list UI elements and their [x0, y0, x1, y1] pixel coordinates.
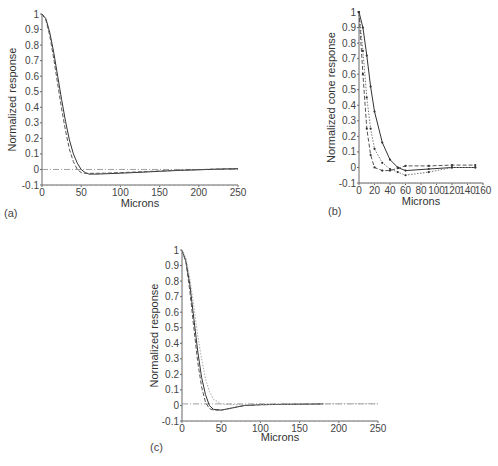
- x-tick-label: 50: [216, 423, 228, 434]
- data-marker: [428, 168, 430, 170]
- data-marker: [404, 165, 406, 167]
- data-marker: [381, 169, 383, 171]
- x-tick-label: 0: [179, 423, 185, 434]
- data-marker: [389, 169, 391, 171]
- y-tick-label: 1: [350, 7, 356, 18]
- series-line: [42, 14, 238, 174]
- y-tick-label: 0.3: [25, 117, 39, 128]
- y-tick-label: 1: [173, 245, 179, 256]
- y-tick-label: 0.7: [165, 291, 179, 302]
- data-marker: [428, 171, 430, 173]
- y-tick-label: 1: [33, 9, 39, 20]
- y-axis-label: Normalized response: [6, 48, 18, 152]
- y-tick-label: 0.4: [342, 100, 356, 111]
- data-marker: [428, 165, 430, 167]
- series-line: [42, 14, 238, 173]
- x-axis-label: Microns: [261, 431, 300, 443]
- data-marker: [362, 26, 364, 28]
- data-marker: [370, 154, 372, 156]
- y-tick-label: 0.8: [342, 38, 356, 49]
- data-marker: [474, 164, 476, 166]
- y-tick-label: 0.6: [165, 307, 179, 318]
- data-marker: [373, 166, 375, 168]
- y-tick-label: 0.6: [25, 71, 39, 82]
- data-marker: [451, 166, 453, 168]
- y-tick-label: 0.1: [165, 384, 179, 395]
- y-tick-label: 0.1: [25, 148, 39, 159]
- chart-a: -0.100.10.20.30.40.50.60.70.80.910501001…: [4, 9, 247, 220]
- data-marker: [362, 73, 364, 75]
- panel-label: (b): [328, 205, 341, 217]
- data-marker: [381, 162, 383, 164]
- figure-canvas: -0.100.10.20.30.40.50.60.70.80.910501001…: [0, 0, 498, 466]
- y-tick-label: 0.2: [165, 369, 179, 380]
- y-tick-label: 0.8: [25, 40, 39, 51]
- x-tick-label: 250: [230, 187, 247, 198]
- x-tick-label: 50: [76, 187, 88, 198]
- data-marker: [370, 86, 372, 88]
- y-tick-label: 0.5: [25, 86, 39, 97]
- y-tick-label: -0.1: [339, 178, 357, 189]
- y-tick-label: 0.1: [342, 146, 356, 157]
- data-marker: [381, 141, 383, 143]
- data-marker: [404, 169, 406, 171]
- x-tick-label: 0: [356, 185, 362, 196]
- y-tick-label: 0.9: [342, 22, 356, 33]
- x-tick-label: 200: [190, 187, 207, 198]
- series-line: [182, 250, 378, 405]
- data-marker: [370, 127, 372, 129]
- data-marker: [404, 174, 406, 176]
- x-axis-label: Microns: [121, 197, 160, 209]
- y-axis-label: Normalized response: [148, 284, 160, 388]
- y-tick-label: 0.9: [25, 24, 39, 35]
- y-tick-label: 0.3: [165, 353, 179, 364]
- series-line: [182, 250, 323, 410]
- series-line: [359, 12, 475, 171]
- series-line: [359, 12, 475, 175]
- y-tick-label: 0.2: [342, 131, 356, 142]
- data-marker: [373, 110, 375, 112]
- y-tick-label: 0: [33, 164, 39, 175]
- data-marker: [389, 159, 391, 161]
- y-tick-label: 0.4: [25, 102, 39, 113]
- data-marker: [366, 96, 368, 98]
- x-axis-label: Microns: [402, 195, 441, 207]
- y-tick-label: 0.9: [165, 260, 179, 271]
- data-marker: [366, 54, 368, 56]
- y-tick-label: -0.1: [162, 416, 180, 427]
- y-tick-label: 0.8: [165, 276, 179, 287]
- x-tick-label: 0: [39, 187, 45, 198]
- y-tick-label: -0.1: [22, 180, 40, 191]
- data-marker: [397, 167, 399, 169]
- y-tick-label: 0.5: [165, 322, 179, 333]
- data-marker: [397, 171, 399, 173]
- panel-label: (c): [150, 441, 163, 453]
- chart-b: -0.100.10.20.30.40.50.60.70.80.910204060…: [325, 7, 492, 218]
- y-tick-label: 0.2: [25, 133, 39, 144]
- series-line: [359, 12, 475, 171]
- y-tick-label: 0: [173, 400, 179, 411]
- y-tick-label: 0.7: [25, 55, 39, 66]
- x-tick-label: 20: [369, 185, 381, 196]
- y-tick-label: 0.7: [342, 53, 356, 64]
- data-marker: [451, 164, 453, 166]
- y-tick-label: 0.5: [342, 84, 356, 95]
- x-tick-label: 40: [384, 185, 396, 196]
- data-marker: [474, 166, 476, 168]
- y-tick-label: 0.4: [165, 338, 179, 349]
- data-marker: [366, 127, 368, 129]
- y-tick-label: 0.3: [342, 115, 356, 126]
- data-marker: [362, 50, 364, 52]
- y-tick-label: 0: [350, 162, 356, 173]
- x-tick-label: 160: [475, 185, 492, 196]
- data-marker: [358, 11, 360, 13]
- x-tick-label: 200: [330, 423, 347, 434]
- data-marker: [373, 148, 375, 150]
- chart-c: -0.100.10.20.30.40.50.60.70.80.910501001…: [148, 245, 387, 454]
- y-tick-label: 0.6: [342, 69, 356, 80]
- x-tick-label: 250: [370, 423, 387, 434]
- y-axis-label: Normalized cone response: [325, 32, 337, 163]
- panel-label: (a): [4, 207, 17, 219]
